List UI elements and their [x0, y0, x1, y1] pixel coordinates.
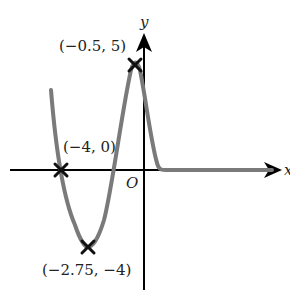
max-point-label: (−0.5, 5)	[59, 37, 126, 55]
x-axis-label: x	[284, 161, 290, 179]
origin-label: O	[126, 174, 138, 192]
y-axis-label: y	[139, 13, 149, 31]
root-point-label: (−4, 0)	[63, 138, 116, 156]
min-point-label: (−2.75, −4)	[42, 261, 131, 279]
graph-canvas: y x O (−0.5, 5) (−4, 0) (−2.75, −4)	[0, 0, 290, 290]
